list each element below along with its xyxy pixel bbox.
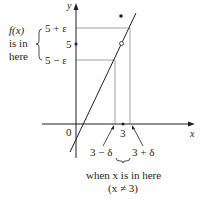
left-note-fx: f(x) bbox=[9, 25, 24, 36]
left-note-here: here bbox=[9, 51, 28, 62]
arrow-right-delta-head-icon bbox=[132, 125, 135, 130]
x-tick-three: 3 bbox=[120, 128, 126, 139]
y-tick-lower-epsilon: 5 − ε bbox=[45, 55, 67, 66]
y-tick-5-dot bbox=[75, 43, 78, 46]
origin-label: 0 bbox=[66, 127, 72, 138]
open-point-icon bbox=[120, 42, 124, 46]
y-axis-arrow-icon bbox=[74, 3, 79, 10]
x-axis-arrow-icon bbox=[188, 122, 195, 127]
function-line bbox=[70, 13, 136, 152]
x-axis-label: x bbox=[190, 128, 194, 139]
x-tick-right-delta: 3 + δ bbox=[132, 147, 154, 158]
bottom-note-line2: (x ≠ 3) bbox=[108, 183, 138, 194]
y-axis-label: y bbox=[67, 0, 71, 11]
arrow-left-delta bbox=[103, 127, 113, 146]
bottom-brace-icon bbox=[116, 158, 130, 163]
filled-point-icon bbox=[119, 14, 123, 18]
x-tick-left-delta: 3 − δ bbox=[90, 147, 112, 158]
y-tick-upper-epsilon: 5 + ε bbox=[45, 23, 67, 34]
bottom-note-line1: when x is in here bbox=[86, 170, 161, 181]
x-tick-3-dot bbox=[122, 123, 125, 126]
y-tick-five: 5 bbox=[66, 39, 72, 50]
left-note-is-in: is in bbox=[9, 38, 28, 49]
arrow-left-delta-head-icon bbox=[111, 125, 114, 130]
left-brace-icon bbox=[36, 29, 42, 60]
arrow-right-delta bbox=[133, 127, 143, 146]
